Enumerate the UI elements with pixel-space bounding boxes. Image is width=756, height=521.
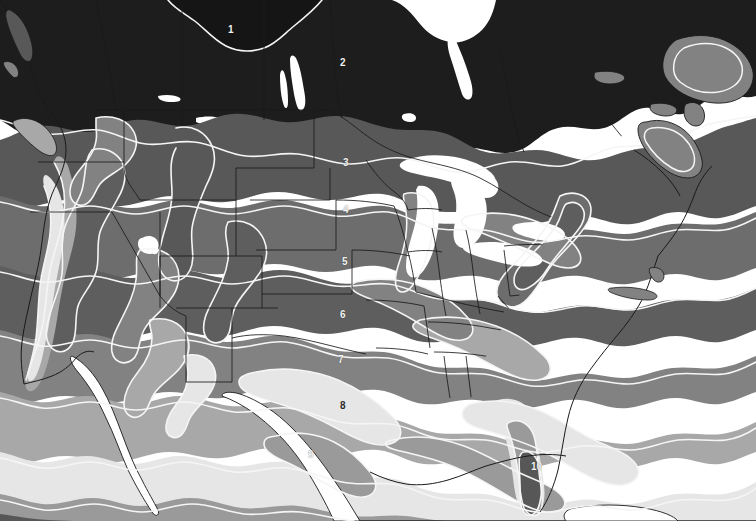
hardiness-zone-map: 1 2 3 4 5 6 7 8 9 10: [0, 0, 756, 521]
map-canvas: [0, 0, 756, 521]
anticosti: [594, 71, 625, 84]
